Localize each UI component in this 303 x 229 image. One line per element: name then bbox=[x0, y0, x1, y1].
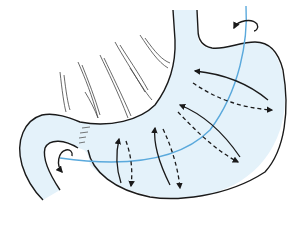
stomach-body bbox=[20, 10, 286, 200]
rotation-arrow-pylorus bbox=[59, 150, 73, 172]
stomach-diagram bbox=[0, 0, 303, 229]
